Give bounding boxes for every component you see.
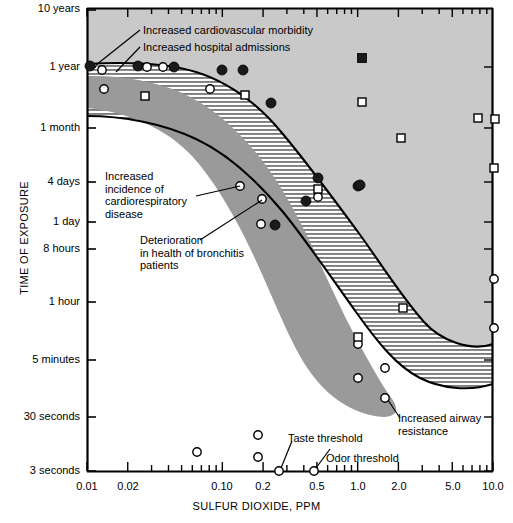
x-tick-marks	[87, 462, 493, 471]
filled-circles-1	[133, 61, 143, 71]
annotation-increased-incidence-cardiorespiratory-disease: Increased incidence of cardiorespiratory…	[105, 170, 187, 220]
open-squares-3	[397, 134, 405, 142]
open-circles-13	[490, 324, 498, 332]
y-tick-label-30-seconds: 30 seconds	[0, 410, 80, 423]
open-squares-9	[314, 185, 322, 193]
annotation-taste-threshold: Taste threshold	[288, 432, 363, 445]
x-tick-label-10-0: 10.0	[473, 480, 513, 493]
open-squares-1	[241, 91, 249, 99]
filled-circles-3	[217, 65, 227, 75]
open-circles-17	[275, 467, 283, 475]
open-squares-2	[358, 98, 366, 106]
x-tick-label-0-10: 0.10	[202, 480, 242, 493]
chart-canvas	[0, 0, 513, 523]
x-tick-label-0-5: 0.5	[297, 480, 337, 493]
open-squares-5	[491, 115, 499, 123]
open-circles-0	[98, 66, 106, 74]
annotation-increased-airway-resistance: Increased airway resistance	[398, 412, 481, 437]
open-squares-8	[354, 333, 362, 341]
open-squares-4	[474, 114, 482, 122]
open-squares-6	[490, 164, 498, 172]
open-circles-2	[159, 63, 167, 71]
open-circles-18	[310, 467, 318, 475]
annotation-deterioration-health-bronchitis-patients: Deterioration in health of bronchitis pa…	[140, 234, 244, 272]
sulfur-dioxide-exposure-chart: 10 years 1 year 1 month 4 days 1 day 8 h…	[0, 0, 513, 523]
x-tick-label-1-0: 1.0	[338, 480, 378, 493]
y-tick-label-1-month: 1 month	[0, 121, 80, 134]
x-tick-label-2-0: 2.0	[379, 480, 419, 493]
filled-squares-0	[358, 54, 367, 63]
annotation-increased-hospital-admissions: Increased hospital admissions	[143, 41, 290, 54]
filled-circles-4	[238, 65, 248, 75]
annotation-increased-cardiovascular-morbidity: Increased cardiovascular morbidity	[143, 24, 313, 37]
y-tick-label-3-seconds: 3 seconds	[0, 464, 80, 477]
filled-circles-2	[169, 62, 179, 72]
x-tick-label-5-0: 5.0	[433, 480, 473, 493]
y-tick-label-1-hour: 1 hour	[0, 295, 80, 308]
y-tick-label-8-hours: 8 hours	[0, 242, 80, 255]
open-squares-0	[141, 92, 149, 100]
open-circles-3	[100, 85, 108, 93]
x-tick-label-0-2: 0.2	[243, 480, 283, 493]
filled-circles-10	[355, 180, 365, 190]
y-tick-label-5-minutes: 5 minutes	[0, 353, 80, 366]
y-axis-title: TIME OF EXPOSURE	[18, 168, 30, 308]
filled-circles-9	[270, 220, 280, 230]
x-tick-label-0-01: 0.01	[67, 480, 107, 493]
x-axis-title: SULFUR DIOXIDE, PPM	[0, 500, 513, 512]
filled-circles-0	[85, 61, 95, 71]
open-squares-7	[399, 304, 407, 312]
filled-circles-5	[266, 98, 276, 108]
leader-taste-threshold	[281, 441, 292, 468]
y-tick-label-10-years: 10 years	[0, 2, 80, 15]
filled-circles-6	[313, 173, 323, 183]
open-circles-16	[254, 453, 262, 461]
open-circles-1	[143, 63, 151, 71]
y-tick-label-4-days: 4 days	[0, 175, 80, 188]
annotation-odor-threshold: Odor threshold	[326, 452, 399, 465]
open-circles-10	[381, 364, 389, 372]
filled-circles-8	[301, 196, 311, 206]
y-tick-label-1-year: 1 year	[0, 60, 80, 73]
open-circles-4	[206, 85, 214, 93]
open-circles-19	[490, 275, 498, 283]
open-circles-7	[314, 193, 322, 201]
open-circles-15	[254, 431, 262, 439]
x-tick-label-0-02: 0.02	[108, 480, 148, 493]
open-circles-11	[354, 374, 362, 382]
y-tick-label-1-day: 1 day	[0, 215, 80, 228]
open-circles-14	[193, 448, 201, 456]
open-circles-8	[257, 220, 265, 228]
